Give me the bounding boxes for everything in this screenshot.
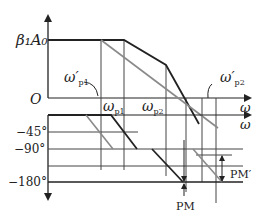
pm-prime-label: PM′ [230,168,252,181]
wp2-prime-leader [208,84,212,98]
phase-x-label: ω [240,117,251,132]
wp2-prime-label: ω′p2 [220,69,245,87]
corner-frequency-guides [101,40,216,203]
tick-minus-180: −180° [8,175,47,189]
tick-minus-45: −45° [16,125,47,139]
pm-label: PM [176,200,195,213]
bode-diagram: β₁A₀ O ω ω′p1 ωp1 ωp2 ω′p2 ω −45° −90° −… [0,0,258,217]
magnitude-x-label: ω [240,100,251,115]
tick-minus-90: −90° [14,142,45,156]
origin-label: O [30,91,42,107]
wp2-label: ωp2 [142,98,164,116]
wp1-label: ωp1 [103,98,125,116]
wp1-prime-label: ω′p1 [64,69,89,87]
phase-axes [48,115,250,199]
magnitude-y-label: β₁A₀ [15,31,48,49]
